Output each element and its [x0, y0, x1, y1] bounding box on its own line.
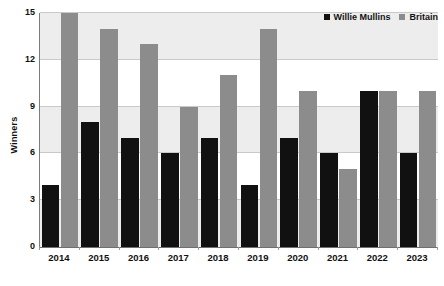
y-tick-label: 6 — [9, 147, 35, 157]
x-tick-label: 2017 — [158, 252, 198, 263]
x-tick-mark — [357, 247, 358, 250]
y-tick-label: 0 — [9, 241, 35, 251]
x-tick-mark — [397, 247, 398, 250]
x-tick-label: 2022 — [357, 252, 397, 263]
x-tick-mark — [238, 247, 239, 250]
x-tick-label: 2019 — [238, 252, 278, 263]
x-tick-label: 2023 — [397, 252, 437, 263]
x-tick-mark — [79, 247, 80, 250]
bar-2022-willie-mullins — [360, 91, 378, 247]
x-tick-label: 2016 — [119, 252, 159, 263]
bar-2015-britain — [100, 29, 118, 247]
x-tick-mark — [278, 247, 279, 250]
x-tick-mark — [318, 247, 319, 250]
bar-2019-britain — [260, 29, 278, 247]
bar-2014-britain — [61, 13, 79, 247]
x-tick-label: 2014 — [39, 252, 79, 263]
bar-2016-britain — [140, 44, 158, 247]
bar-2020-willie-mullins — [280, 138, 298, 247]
legend-label: Britain — [409, 12, 438, 22]
bar-2023-willie-mullins — [400, 153, 418, 247]
square-swatch-icon — [399, 14, 405, 20]
bar-2014-willie-mullins — [42, 185, 60, 247]
bar-2023-britain — [419, 91, 437, 247]
bar-2018-willie-mullins — [201, 138, 219, 247]
x-tick-mark — [39, 247, 40, 250]
y-tick-label: 3 — [9, 194, 35, 204]
plot-area — [39, 13, 438, 247]
bar-2017-willie-mullins — [161, 153, 179, 247]
x-tick-mark — [158, 247, 159, 250]
x-tick-label: 2021 — [318, 252, 358, 263]
x-tick-mark — [437, 247, 438, 250]
bar-2022-britain — [379, 91, 397, 247]
bar-2016-willie-mullins — [121, 138, 139, 247]
x-tick-mark — [198, 247, 199, 250]
x-tick-label: 2015 — [79, 252, 119, 263]
bar-2015-willie-mullins — [81, 122, 99, 247]
square-swatch-icon — [324, 14, 330, 20]
bar-2020-britain — [299, 91, 317, 247]
y-tick-label: 12 — [9, 54, 35, 64]
bar-2019-willie-mullins — [241, 185, 259, 247]
legend-item-willie-mullins[interactable]: Willie Mullins — [324, 12, 391, 22]
bar-chart: Winners 03691215 20142015201620172018201… — [0, 0, 444, 286]
y-tick-label: 9 — [9, 101, 35, 111]
x-tick-label: 2020 — [278, 252, 318, 263]
bar-2018-britain — [220, 75, 238, 247]
x-tick-label: 2018 — [198, 252, 238, 263]
x-tick-mark — [119, 247, 120, 250]
bar-2021-britain — [339, 169, 357, 247]
x-axis-line — [40, 247, 438, 248]
bar-2021-willie-mullins — [320, 153, 338, 247]
bar-2017-britain — [180, 107, 198, 247]
chart-legend: Willie MullinsBritain — [324, 12, 438, 22]
legend-item-britain[interactable]: Britain — [399, 12, 438, 22]
y-tick-label: 15 — [9, 7, 35, 17]
legend-label: Willie Mullins — [334, 12, 391, 22]
